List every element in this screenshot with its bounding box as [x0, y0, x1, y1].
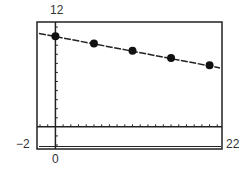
data-point [129, 47, 137, 55]
xmax-label: 22 [226, 138, 239, 150]
data-point [206, 61, 214, 69]
frame [37, 22, 222, 149]
ymax-label: 12 [50, 4, 63, 16]
data-point [167, 54, 175, 62]
data-point [90, 39, 98, 47]
data-point [51, 32, 59, 40]
plot-area [0, 0, 241, 173]
origin-label: 0 [52, 153, 59, 165]
xmin-label: −2 [16, 138, 30, 150]
